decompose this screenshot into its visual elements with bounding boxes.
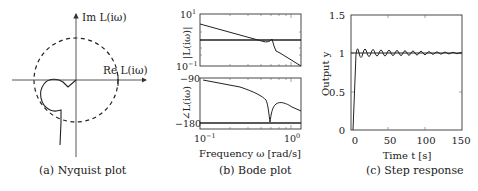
step-xtick-0: 0 (352, 135, 358, 146)
bode-xtick-0.1: 10−1 (194, 132, 216, 144)
step-response-plot: 1.5 1 0.5 0 0 50 100 150 Time t [s] Outp… (320, 10, 471, 161)
step-xtick-150: 150 (451, 135, 470, 146)
mag-ytick-top: 101 (180, 8, 196, 20)
phase-ylabel: ∠L(iω) (181, 86, 192, 120)
mag-ylabel: |L(iω)| (181, 26, 193, 59)
step-frame (351, 15, 462, 130)
bode-xlabel: Frequency ω [rad/s] (199, 148, 301, 159)
mag-ytick-bottom: 10−1 (176, 60, 198, 72)
nyquist-plot: Im L(iω) Re L(iω) (12, 11, 148, 157)
step-xtick-100: 100 (416, 135, 435, 146)
bode-xtick-1: 100 (284, 132, 300, 144)
caption-bode: (b) Bode plot (219, 164, 291, 177)
step-ytick-1: 1 (339, 48, 345, 59)
phase-ytick-top: −90 (180, 73, 200, 84)
caption-nyquist: (a) Nyquist plot (39, 164, 126, 177)
step-ytick-0.5: 0.5 (329, 87, 345, 98)
figure: Im L(iω) Re L(iω) 101 10−1 |L(iω)| (0, 0, 478, 191)
bode-magnitude-plot: 101 10−1 |L(iω)| (176, 8, 301, 72)
caption-step: (c) Step response (366, 164, 464, 177)
step-ylabel: Output y (320, 51, 331, 96)
bode-phase-plot: −90 −180 ∠L(iω) 10−1 100 Frequency ω [ra… (175, 73, 301, 159)
step-ytick-0: 0 (339, 125, 345, 136)
step-xtick-50: 50 (384, 135, 397, 146)
step-curve (353, 49, 462, 130)
step-xlabel: Time t [s] (383, 150, 432, 161)
step-ytick-1.5: 1.5 (329, 10, 345, 21)
mag-curve (200, 24, 301, 66)
nyquist-imag-label: Im L(iω) (82, 11, 127, 23)
nyquist-curve (41, 79, 76, 145)
nyquist-real-label: Re L(iω) (103, 64, 148, 76)
phase-curve (203, 80, 301, 122)
